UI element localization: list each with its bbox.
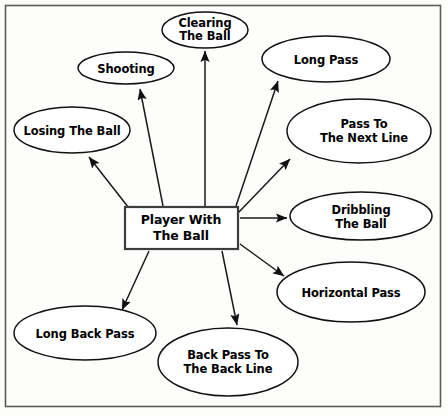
node-label-dribbling-the-ball-line1: Dribbling [331,203,390,217]
node-label-back-pass-to-the-back-line-line2: The Back Line [184,362,273,376]
diagram-canvas: Clearing The Ball Shooting Losing The Ba… [0,0,448,416]
node-horizontal-pass[interactable]: Horizontal Pass [277,262,425,322]
node-label-clearing-the-ball-line2: The Ball [179,29,230,43]
concept-map-svg: Clearing The Ball Shooting Losing The Ba… [0,0,448,416]
edge-to-long-back-pass [122,251,149,310]
node-dribbling-the-ball[interactable]: Dribbling The Ball [290,192,432,240]
node-label-long-back-pass: Long Back Pass [36,327,135,341]
edge-to-horizontal-pass [240,244,284,276]
node-label-pass-to-the-next-line-line2: The Next Line [320,131,408,145]
node-long-pass[interactable]: Long Pass [262,36,390,82]
node-label-player-with-the-ball-line1: Player With [141,212,222,227]
node-label-horizontal-pass: Horizontal Pass [301,286,400,300]
edge-to-long-pass [236,81,278,206]
node-label-pass-to-the-next-line-line1: Pass To [340,117,387,131]
edge-group [89,51,290,325]
edge-to-shooting [140,89,163,206]
node-label-dribbling-the-ball-line2: The Ball [335,217,386,231]
node-label-back-pass-to-the-back-line-line1: Back Pass To [187,348,269,362]
node-back-pass-to-the-back-line[interactable]: Back Pass To The Back Line [158,328,298,396]
node-clearing-the-ball[interactable]: Clearing The Ball [162,12,248,48]
node-player-with-the-ball[interactable]: Player With The Ball [125,207,238,249]
node-label-losing-the-ball: Losing The Ball [23,124,120,138]
node-label-shooting: Shooting [97,62,154,76]
node-label-player-with-the-ball-line2: The Ball [153,228,209,243]
node-label-long-pass: Long Pass [294,53,359,67]
edge-to-back-pass-to-the-back-line [222,251,237,325]
edge-to-pass-to-the-next-line [238,159,290,213]
node-long-back-pass[interactable]: Long Back Pass [14,306,156,360]
node-losing-the-ball[interactable]: Losing The Ball [14,107,130,153]
edge-to-losing-the-ball [89,157,132,212]
node-pass-to-the-next-line[interactable]: Pass To The Next Line [287,99,431,163]
node-shooting[interactable]: Shooting [78,52,174,84]
node-label-clearing-the-ball-line1: Clearing [178,16,231,30]
